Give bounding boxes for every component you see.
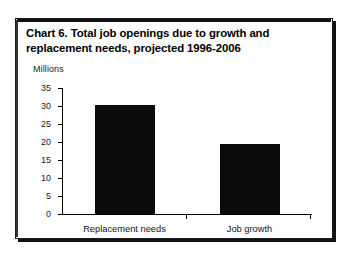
y-tick-label-25: 25 <box>41 119 51 129</box>
y-tick-35: 35 <box>58 88 63 89</box>
y-tick-20: 20 <box>58 142 63 143</box>
y-tick-0: 0 <box>58 214 63 215</box>
y-tick-5: 5 <box>58 196 63 197</box>
chart-title: Chart 6. Total job openings due to growt… <box>26 26 316 55</box>
bar-replacement-needs <box>95 105 155 214</box>
y-tick-10: 10 <box>58 178 63 179</box>
y-axis-unit-label: Millions <box>33 64 64 74</box>
frame-left-rule <box>16 20 18 237</box>
y-tick-label-15: 15 <box>41 155 51 165</box>
y-tick-label-20: 20 <box>41 137 51 147</box>
y-tick-30: 30 <box>58 106 63 107</box>
y-tick-label-5: 5 <box>46 191 51 201</box>
bar-job-growth <box>220 144 280 214</box>
figure-page: Chart 6. Total job openings due to growt… <box>0 0 353 264</box>
x-label-replacement-needs: Replacement needs <box>83 224 166 234</box>
y-tick-label-0: 0 <box>46 209 51 219</box>
plot-area: 05101520253035 Replacement needsJob grow… <box>62 88 312 215</box>
y-tick-25: 25 <box>58 124 63 125</box>
y-tick-label-10: 10 <box>41 173 51 183</box>
y-tick-15: 15 <box>58 160 63 161</box>
y-tick-label-35: 35 <box>41 83 51 93</box>
y-tick-label-30: 30 <box>41 101 51 111</box>
x-axis-end-tick <box>310 214 311 219</box>
frame-top-rule <box>17 19 331 22</box>
x-axis-center-tick <box>186 214 187 219</box>
x-label-job-growth: Job growth <box>227 224 272 234</box>
